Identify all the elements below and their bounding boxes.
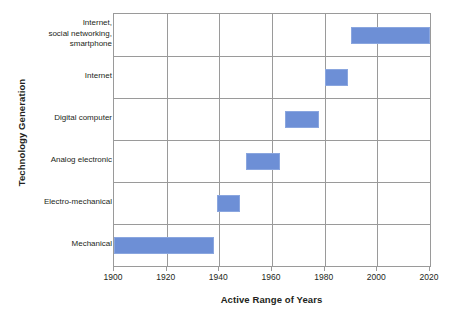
x-axis-tick-mark — [429, 266, 430, 271]
range-bar — [351, 27, 430, 44]
y-axis-tick-label: Internet, social networking, smartphone — [28, 18, 112, 50]
x-axis-tick-mark — [166, 266, 167, 271]
x-axis-tick-mark — [218, 266, 219, 271]
gridline-horizontal — [114, 182, 430, 183]
range-bar — [246, 153, 280, 170]
range-bar — [285, 111, 319, 128]
x-axis-tick-label: 1940 — [209, 272, 228, 282]
y-axis-tick-label: Analog electronic — [28, 155, 112, 166]
x-axis-tick-mark — [271, 266, 272, 271]
plot-area — [113, 13, 431, 267]
range-bar — [325, 69, 349, 86]
range-bar — [217, 195, 241, 212]
x-axis-tick-label: 2020 — [420, 272, 439, 282]
x-axis-title: Active Range of Years — [113, 294, 430, 305]
y-axis-tick-label: Digital computer — [28, 113, 112, 124]
gridline-horizontal — [114, 56, 430, 57]
y-axis-tick-labels: MechanicalElectro-mechanicalAnalog elect… — [28, 13, 112, 265]
x-axis-tick-mark — [113, 266, 114, 271]
range-bar — [114, 237, 214, 254]
y-axis-tick-label: Mechanical — [28, 239, 112, 250]
x-axis-tick-labels: 1900192019401960198020002020 — [113, 272, 430, 286]
x-axis-tick-mark — [376, 266, 377, 271]
x-axis-tick-mark — [324, 266, 325, 271]
plot-inner — [114, 14, 430, 266]
y-axis-tick-label: Electro-mechanical — [28, 197, 112, 208]
x-axis-tick-label: 1900 — [104, 272, 123, 282]
x-axis-tick-label: 1960 — [262, 272, 281, 282]
x-axis-tick-label: 1980 — [314, 272, 333, 282]
x-axis-tick-label: 1920 — [156, 272, 175, 282]
gridline-horizontal — [114, 224, 430, 225]
x-axis-tick-label: 2000 — [367, 272, 386, 282]
gridline-horizontal — [114, 98, 430, 99]
technology-generation-timeline-chart: Technology Generation MechanicalElectro-… — [0, 0, 455, 321]
gridline-horizontal — [114, 140, 430, 141]
y-axis-tick-label: Internet — [28, 71, 112, 82]
